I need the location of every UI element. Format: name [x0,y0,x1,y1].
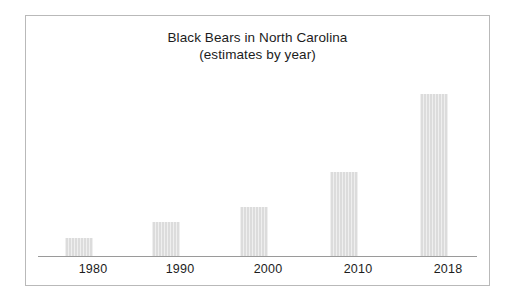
chart-title: Black Bears in North Carolina [25,29,490,46]
x-tick-label-2000: 2000 [238,261,298,277]
bar-2000 [240,207,268,256]
chart-figure: Black Bears in North Carolina (estimates… [0,0,515,299]
chart-title-block: Black Bears in North Carolina (estimates… [25,29,490,63]
x-axis-tick-labels: 19801990200020102018 [38,261,477,279]
x-tick-label-2010: 2010 [328,261,388,277]
x-tick-label-1990: 1990 [150,261,210,277]
x-tick-label-1980: 1980 [63,261,123,277]
bar-2010 [330,172,358,256]
bar-1980 [65,238,93,256]
plot-area [38,60,477,256]
x-axis-line [38,256,477,257]
bar-1990 [152,222,180,256]
x-tick-label-2018: 2018 [418,261,478,277]
bar-2018 [420,94,448,256]
